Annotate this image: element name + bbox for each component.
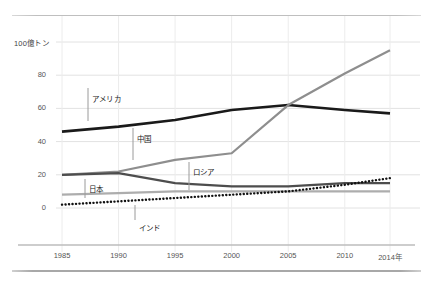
y-tick-label-100: 100億トン: [14, 37, 49, 48]
series-label-ロシア: ロシア: [193, 166, 215, 177]
series-line-アメリカ: [62, 105, 390, 132]
x-gridlines-group: [62, 16, 390, 252]
series-label-日本: 日本: [89, 183, 103, 194]
x-tick-label-2014年: 2014年: [378, 251, 402, 262]
y-tick-label-80: 80: [24, 70, 46, 79]
y-tick-label-20: 20: [24, 170, 46, 179]
x-tick-label-2005: 2005: [280, 251, 297, 260]
x-tick-label-2000: 2000: [223, 251, 240, 260]
y-tick-label-40: 40: [24, 137, 46, 146]
series-lines-group: [62, 50, 390, 204]
x-tick-label-1995: 1995: [167, 251, 184, 260]
y-tick-label-60: 60: [24, 103, 46, 112]
chart-figure: 020406080100億トン 198519901995200020052010…: [0, 0, 433, 284]
y-tick-label-0: 0: [24, 203, 46, 212]
x-tick-label-2010: 2010: [336, 251, 353, 260]
series-line-中国: [62, 50, 390, 175]
series-label-インド: インド: [139, 222, 161, 233]
series-label-アメリカ: アメリカ: [92, 93, 121, 104]
x-tick-label-1985: 1985: [54, 251, 71, 260]
x-tick-label-1990: 1990: [110, 251, 127, 260]
series-label-中国: 中国: [137, 133, 151, 144]
annotation-leaders-group: [85, 88, 189, 220]
line-chart-plot: [0, 0, 433, 284]
